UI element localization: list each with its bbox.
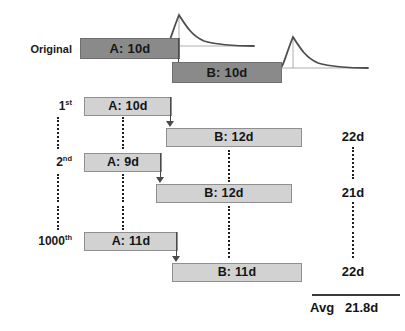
row-label-iteration-2: 2nd <box>10 155 72 168</box>
bar-iteration-1000-a: A: 11d <box>84 232 178 251</box>
bar-original-b-label: B: 10d <box>207 66 248 79</box>
vertical-ellipsis-icon-totals-3 <box>352 232 354 258</box>
vertical-ellipsis-icon-task-b-3 <box>228 232 230 258</box>
total-iteration-1000: 22d <box>330 265 376 278</box>
row-label-original: Original <box>10 42 72 55</box>
arrow-down-icon-iteration-1 <box>166 121 174 127</box>
vertical-ellipsis-icon-labels-1 <box>57 117 59 149</box>
bar-iteration-1-a-label: A: 10d <box>108 100 147 113</box>
vertical-ellipsis-icon-labels-3 <box>57 206 59 230</box>
row-label-iteration-1: 1st <box>10 99 72 112</box>
row-label-iteration-1000-text: 1000 <box>38 234 65 248</box>
vertical-ellipsis-icon-task-b-2 <box>228 206 230 230</box>
connector-iteration-2 <box>160 153 161 179</box>
bar-original-b: B: 10d <box>172 62 282 83</box>
vertical-ellipsis-icon-totals-1 <box>352 147 354 179</box>
bar-iteration-1000-b-label: B: 11d <box>218 266 257 279</box>
total-iteration-1: 22d <box>330 130 376 143</box>
vertical-ellipsis-icon-totals-2 <box>352 202 354 228</box>
connector-iteration-1 <box>170 97 171 123</box>
row-label-iteration-1000-ordinal: th <box>65 233 72 242</box>
average-label: Avg <box>310 301 334 314</box>
vertical-ellipsis-icon-task-a-2 <box>122 174 124 202</box>
row-label-iteration-2-ordinal: nd <box>63 154 72 163</box>
row-label-iteration-2-text: 2 <box>56 155 63 169</box>
bar-iteration-1000-b: B: 11d <box>172 263 302 282</box>
row-label-original-text: Original <box>30 43 72 55</box>
vertical-ellipsis-icon-labels-2 <box>57 174 59 202</box>
vertical-ellipsis-icon-task-a-1 <box>122 117 124 149</box>
bar-original-a: A: 10d <box>80 38 180 59</box>
average-divider <box>312 294 400 296</box>
bar-iteration-1000-a-label: A: 11d <box>112 235 151 248</box>
bar-original-a-label: A: 10d <box>110 42 151 55</box>
bar-iteration-2-a-label: A: 9d <box>107 156 139 169</box>
vertical-ellipsis-icon-task-b-1 <box>228 150 230 182</box>
bar-iteration-2-b: B: 12d <box>156 184 292 203</box>
arrow-down-icon-iteration-2 <box>156 177 164 183</box>
simulation-diagram: Original A: 10d B: 10d 1st A: 10d B: 12d… <box>0 0 405 331</box>
vertical-ellipsis-icon-task-a-3 <box>122 206 124 230</box>
bar-iteration-2-b-label: B: 12d <box>204 187 243 200</box>
total-iteration-2: 21d <box>330 186 376 199</box>
bar-iteration-1-b-label: B: 12d <box>214 131 253 144</box>
arrow-down-icon-iteration-1000 <box>172 256 180 262</box>
bar-iteration-2-a: A: 9d <box>84 153 162 172</box>
connector-iteration-1000 <box>176 232 177 258</box>
average-value: 21.8d <box>345 301 378 314</box>
distribution-curve-icon-original-b <box>272 28 372 70</box>
bar-iteration-1-a: A: 10d <box>84 97 172 116</box>
bar-iteration-1-b: B: 12d <box>166 128 302 147</box>
row-label-iteration-1000: 1000th <box>4 234 72 247</box>
row-label-iteration-1-ordinal: st <box>65 98 72 107</box>
